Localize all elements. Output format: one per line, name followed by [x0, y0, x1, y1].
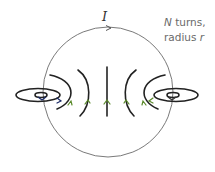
arrow-right-icon — [57, 98, 61, 103]
left-arc-2 — [78, 70, 89, 116]
current-loop — [43, 27, 173, 157]
current-direction-arrow-icon — [106, 26, 111, 31]
turns-annotation: N turns, — [164, 16, 206, 28]
current-label: I — [101, 9, 108, 24]
right-outer-field-loop — [154, 89, 198, 102]
field-arrows — [57, 98, 153, 105]
left-outer-field-loop — [16, 89, 60, 102]
right-arc-1 — [144, 75, 165, 109]
current-loop-field-diagram: I N turns, radius r — [0, 0, 215, 172]
arrow-up-icon — [142, 101, 146, 105]
right-arc-2 — [125, 70, 136, 116]
left-arc-1 — [50, 75, 71, 109]
arrow-up-icon — [68, 101, 72, 105]
left-inner-field-loop — [35, 93, 47, 98]
arrow-left-icon — [149, 98, 153, 103]
radius-annotation: radius r — [164, 31, 205, 43]
